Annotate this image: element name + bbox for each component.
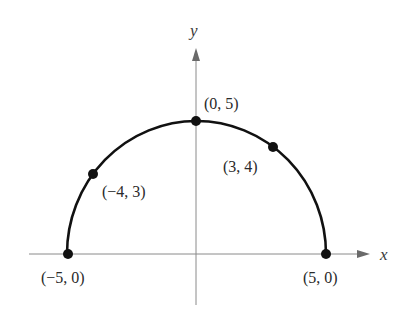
label-0-5: (0, 5) — [204, 95, 239, 113]
point-0-5 — [191, 116, 201, 126]
y-axis-arrow-icon — [192, 48, 200, 61]
y-axis-label: y — [188, 21, 198, 40]
semicircle-diagram: x y (−5, 0) (−4, 3) (0, 5) (3, 4) (5, 0) — [0, 0, 401, 316]
point-3-4 — [268, 142, 278, 152]
point-neg4-3 — [88, 169, 98, 179]
point-5-0 — [321, 249, 331, 259]
point-neg5-0 — [63, 249, 73, 259]
label-neg4-3: (−4, 3) — [102, 183, 146, 201]
label-neg5-0: (−5, 0) — [41, 269, 85, 287]
x-axis-arrow-icon — [357, 250, 370, 258]
x-axis-label: x — [379, 245, 388, 264]
label-3-4: (3, 4) — [223, 158, 258, 176]
label-5-0: (5, 0) — [303, 269, 338, 287]
